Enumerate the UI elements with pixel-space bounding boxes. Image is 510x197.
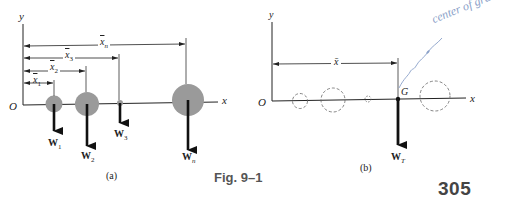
weight-n-base: W xyxy=(182,151,192,162)
distance-label-x2: x2 xyxy=(48,61,60,75)
weight-label-n: Wn xyxy=(182,151,196,165)
handwritten-pointer xyxy=(399,38,442,88)
distance-label-x3: x3 xyxy=(63,49,75,63)
distance-label-x1: x1 xyxy=(33,74,41,88)
distance-label-xbar: x̄ xyxy=(331,56,341,67)
particle-outline-n xyxy=(420,81,450,111)
origin-label-a: O xyxy=(9,100,17,112)
weight-1-base: W xyxy=(48,137,58,148)
figure-caption: Fig. 9–1 xyxy=(214,170,262,185)
x-axis-label-b: x xyxy=(470,92,475,104)
panel-b-label: (b) xyxy=(360,162,372,173)
weight-label-1: W1 xyxy=(48,137,62,151)
panel-b xyxy=(272,22,466,145)
weight-t-base: W xyxy=(391,151,401,162)
panel-a-label: (a) xyxy=(106,170,117,181)
origin-label-b: O xyxy=(258,96,266,108)
distance-label-xn: xn xyxy=(98,36,110,50)
figure-9-1 xyxy=(0,0,510,197)
page-number: 305 xyxy=(438,178,471,197)
distance-xn-sub: n xyxy=(104,42,108,50)
y-axis-label-a: y xyxy=(19,10,24,22)
weight-t-sub: T xyxy=(401,157,405,165)
x-axis xyxy=(272,98,466,101)
resultant-weight-label: WT xyxy=(391,151,405,165)
x-axis-label-a: x xyxy=(222,94,227,106)
weight-2-base: W xyxy=(81,150,91,161)
distance-x2-sub: 2 xyxy=(54,67,58,75)
weight-3-base: W xyxy=(114,128,124,139)
distance-x3-sub: 3 xyxy=(69,55,73,63)
distance-x1-sub: 1 xyxy=(37,80,41,88)
weight-3-sub: 3 xyxy=(124,134,128,142)
weight-1-sub: 1 xyxy=(58,143,62,151)
g-point-label: G xyxy=(401,86,408,97)
y-axis-label-b: y xyxy=(269,9,273,20)
weight-n-sub: n xyxy=(192,157,196,165)
weight-label-3: W3 xyxy=(114,128,128,142)
weight-label-2: W2 xyxy=(81,150,95,164)
weight-2-sub: 2 xyxy=(91,156,95,164)
